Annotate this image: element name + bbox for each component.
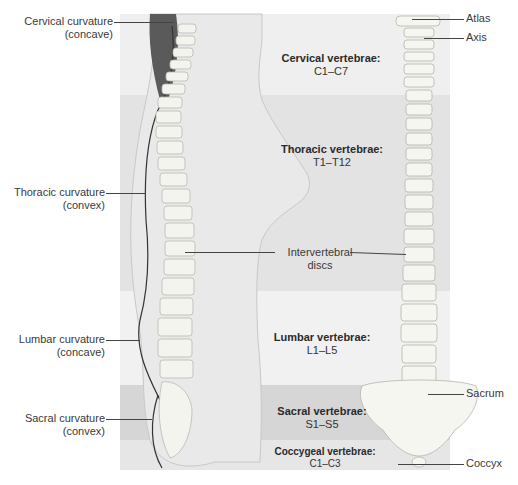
label-line: Cervical curvature [8,15,113,28]
label-line: discs [275,259,365,272]
region-range: S1–S5 [305,418,338,430]
region-name: Cervical vertebrae: [268,52,394,65]
leader-line [428,394,464,395]
region-name: Coccygeal vertebrae: [262,446,388,458]
lumbar-region-label: Lumbar vertebrae: L1–L5 [262,331,382,357]
label-line: (concave) [8,28,113,41]
thoracic-region-label: Thoracic vertebrae: T1–T12 [264,143,400,169]
cervical-region-label: Cervical vertebrae: C1–C7 [268,52,394,78]
region-name: Lumbar vertebrae: [262,331,382,344]
coccygeal-region-label: Coccygeal vertebrae: C1–C3 [262,446,388,470]
cervical-curvature-label: Cervical curvature (concave) [8,15,113,41]
leader-line [106,193,146,194]
region-range: C1–C3 [309,458,340,469]
label-line: Thoracic curvature [0,186,105,199]
intervertebral-discs-label: Intervertebral discs [275,246,365,272]
label-line: (convex) [0,199,105,212]
axis-label: Axis [466,31,487,44]
region-range: C1–C7 [314,65,348,77]
thoracic-curvature-label: Thoracic curvature (convex) [0,186,105,212]
posterior-vertebrae [360,16,477,467]
region-name: Thoracic vertebrae: [264,143,400,156]
leader-line [185,252,275,253]
leader-line [106,340,140,341]
region-range: T1–T12 [313,156,351,168]
label-line: (concave) [0,346,105,359]
region-name: Sacral vertebrae: [262,405,382,418]
leader-line [412,19,464,20]
label-line: Lumbar curvature [0,333,105,346]
label-line: Sacral curvature [0,412,105,425]
leader-line [424,38,464,39]
leader-line [106,419,152,420]
lumbar-curvature-label: Lumbar curvature (concave) [0,333,105,359]
sacral-curvature-label: Sacral curvature (convex) [0,412,105,438]
label-line: (convex) [0,425,105,438]
leader-line [398,464,464,465]
sacral-region-label: Sacral vertebrae: S1–S5 [262,405,382,431]
leader-line [114,22,174,23]
sacrum-label: Sacrum [466,387,504,400]
atlas-label: Atlas [466,12,490,25]
coccyx-label: Coccyx [466,457,502,470]
region-range: L1–L5 [307,344,338,356]
